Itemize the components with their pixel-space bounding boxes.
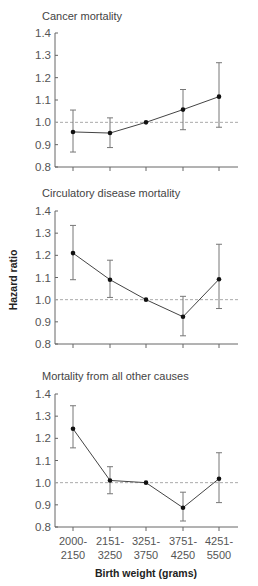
y-tick-label: 1.4 bbox=[35, 388, 52, 400]
data-point bbox=[181, 505, 186, 510]
x-tick-label: 3251- bbox=[132, 535, 160, 547]
panel-2: Circulatory disease mortality1.41.31.21.… bbox=[35, 187, 238, 350]
data-point bbox=[108, 478, 113, 483]
y-tick-label: 1.3 bbox=[35, 49, 51, 61]
x-tick-label: 2150 bbox=[61, 549, 85, 561]
panel-title: Circulatory disease mortality bbox=[42, 187, 181, 199]
data-point bbox=[217, 277, 222, 282]
y-tick-label: 1.3 bbox=[35, 227, 51, 239]
x-tick-label: 2000- bbox=[59, 535, 87, 547]
y-tick-label: 1.2 bbox=[35, 432, 51, 444]
y-tick-label: 1.1 bbox=[35, 272, 51, 284]
y-tick-label: 0.9 bbox=[35, 499, 51, 511]
panel-3: Mortality from all other causes1.41.31.2… bbox=[35, 370, 238, 533]
data-point bbox=[71, 251, 76, 256]
x-tick-label: 4250 bbox=[171, 549, 195, 561]
y-tick-label: 1.1 bbox=[35, 455, 51, 467]
data-point bbox=[181, 314, 186, 319]
panel-title: Mortality from all other causes bbox=[42, 370, 189, 382]
panel-1: Cancer mortality1.41.31.21.11.00.90.8 bbox=[35, 10, 238, 173]
y-tick-label: 0.8 bbox=[35, 161, 51, 173]
y-tick-label: 1.4 bbox=[35, 205, 52, 217]
y-tick-label: 1.2 bbox=[35, 72, 51, 84]
y-tick-label: 1.2 bbox=[35, 249, 51, 261]
x-tick-label: 3250 bbox=[98, 549, 122, 561]
y-tick-label: 1.0 bbox=[35, 116, 51, 128]
y-tick-label: 1.3 bbox=[35, 410, 51, 422]
data-point bbox=[71, 130, 76, 135]
y-tick-label: 1.1 bbox=[35, 94, 51, 106]
x-tick-label: 4251- bbox=[205, 535, 233, 547]
x-axis-label: Birth weight (grams) bbox=[95, 567, 197, 579]
panel-title: Cancer mortality bbox=[42, 10, 123, 22]
data-point bbox=[144, 297, 149, 302]
data-line bbox=[73, 429, 219, 508]
y-tick-label: 0.9 bbox=[35, 316, 51, 328]
y-tick-label: 1.0 bbox=[35, 294, 51, 306]
x-tick-label: 5500 bbox=[207, 549, 231, 561]
y-tick-label: 1.0 bbox=[35, 477, 51, 489]
hazard-ratio-chart: Cancer mortality1.41.31.21.11.00.90.8Cir… bbox=[0, 0, 258, 586]
y-axis-label: Hazard ratio bbox=[7, 250, 19, 311]
data-line bbox=[73, 253, 219, 317]
x-tick-label: 2151- bbox=[96, 535, 124, 547]
data-point bbox=[181, 107, 186, 112]
data-line bbox=[73, 97, 219, 133]
y-tick-label: 1.4 bbox=[35, 27, 52, 39]
y-tick-label: 0.8 bbox=[35, 338, 51, 350]
y-tick-label: 0.8 bbox=[35, 521, 51, 533]
data-point bbox=[217, 476, 222, 481]
data-point bbox=[108, 131, 113, 136]
data-point bbox=[108, 277, 113, 282]
y-tick-label: 0.9 bbox=[35, 139, 51, 151]
data-point bbox=[71, 427, 76, 432]
data-point bbox=[144, 480, 149, 485]
x-tick-label: 3751- bbox=[169, 535, 197, 547]
data-point bbox=[217, 94, 222, 99]
x-tick-label: 3750 bbox=[134, 549, 158, 561]
data-point bbox=[144, 120, 149, 125]
